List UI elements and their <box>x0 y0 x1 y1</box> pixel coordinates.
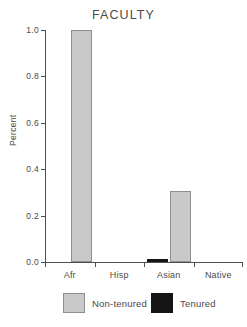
x-axis-tick-label: Hisp <box>110 270 129 280</box>
y-axis-tick <box>41 123 46 124</box>
legend-item-non-tenured: Non-tenured <box>63 293 147 313</box>
x-axis-tick <box>194 262 195 267</box>
faculty-bar-chart: FACULTY Percent 0.00.20.40.60.81.0 AfrHi… <box>0 0 247 327</box>
bar-afr-non-tenured <box>71 30 92 262</box>
y-axis-tick <box>41 169 46 170</box>
x-axis-tick-label: Afr <box>64 270 76 280</box>
chart-title: FACULTY <box>0 8 247 22</box>
plot-area: 0.00.20.40.60.81.0 AfrHispAsianNative <box>45 30 243 262</box>
legend-label-tenured: Tenured <box>180 298 216 309</box>
legend-label-non-tenured: Non-tenured <box>92 298 147 309</box>
y-axis-tick-label: 0.8 <box>26 71 39 81</box>
bar-asian-non-tenured <box>170 191 191 262</box>
y-axis-line <box>45 30 46 262</box>
y-axis-tick-label: 0.2 <box>26 211 39 221</box>
y-axis-tick-label: 1.0 <box>26 25 39 35</box>
x-axis-tick-label: Asian <box>157 270 181 280</box>
y-axis-tick <box>41 76 46 77</box>
x-axis-tick <box>95 262 96 267</box>
gray-square-swatch <box>63 293 85 313</box>
y-axis-tick-label: 0.0 <box>26 257 39 267</box>
y-axis-tick-label: 0.6 <box>26 118 39 128</box>
x-axis-tick <box>144 262 145 267</box>
y-axis-tick <box>41 216 46 217</box>
legend-item-tenured: Tenured <box>151 293 216 313</box>
x-axis-tick <box>45 262 46 267</box>
y-axis-title: Percent <box>8 115 18 146</box>
chart-legend: Non-tenured Tenured <box>0 293 247 323</box>
x-axis-tick <box>242 262 243 267</box>
bar-asian-tenured <box>147 259 168 262</box>
black-square-swatch <box>151 293 173 313</box>
y-axis-tick <box>41 30 46 31</box>
y-axis-tick-label: 0.4 <box>26 164 39 174</box>
x-axis-tick-label: Native <box>205 270 232 280</box>
